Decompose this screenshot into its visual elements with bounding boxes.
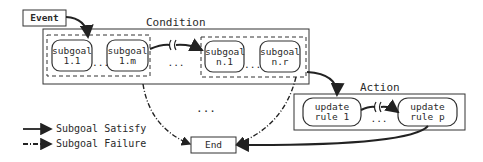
condition-title: Condition	[146, 16, 206, 29]
event-to-subgoal-arrow	[66, 17, 88, 37]
subgoal-n-r-label: subgoal n.r	[260, 47, 300, 67]
groupn-ellipsis: ...	[244, 60, 260, 70]
legend-satisfy-label: Subgoal Satisfy	[56, 123, 146, 134]
failure-arrow-groupn	[237, 77, 296, 144]
subgoal-1-1-label: subgoal 1.1	[52, 46, 92, 66]
subgoal-n-1-label: subgoal n.1	[205, 47, 244, 67]
update-rule-p-label: update rule p	[398, 102, 457, 122]
end-label: End	[191, 140, 236, 150]
middle-ellipsis: ...	[196, 104, 216, 114]
failure-arrow-group1	[143, 84, 190, 144]
break-mark-2	[375, 102, 382, 112]
group1-ellipsis: ...	[92, 58, 107, 68]
subgoal-1-m-label: subgoal 1.m	[107, 46, 148, 66]
action-ellipsis: ...	[370, 114, 388, 124]
legend-failure-label: Subgoal Failure	[56, 138, 146, 149]
between-groups-ellipsis: ...	[166, 58, 186, 68]
condition-to-action-arrow	[307, 72, 337, 95]
update-rule-1-label: update rule 1	[303, 102, 361, 122]
break-mark-1	[170, 40, 177, 50]
rulep-to-end-arrow	[237, 126, 428, 145]
action-title: Action	[360, 81, 400, 94]
event-label: Event	[23, 13, 66, 23]
